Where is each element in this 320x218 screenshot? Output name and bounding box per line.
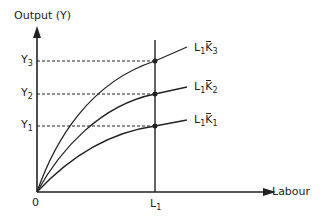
y-axis-label: Output (Y) [14,10,71,22]
curve-k2-label: L1K2 [194,81,218,94]
point-y3 [153,59,158,64]
y2-label: Y2 [21,87,33,100]
x-axis-label: Labour [272,186,310,198]
production-diagram: Output (Y) Labour 0 L1 Y3 Y2 Y1 L1K3 L1K… [0,0,320,218]
curve-k1-label: L1K1 [194,114,218,127]
curve-k3-label: L1K3 [194,42,218,55]
origin-label: 0 [32,197,39,209]
curve-k1 [37,120,187,192]
point-y1 [153,124,158,129]
l1-label: L1 [150,198,161,211]
y1-label: Y1 [21,119,33,132]
y-axis-arrow-icon [33,26,41,38]
y3-label: Y3 [21,54,33,67]
curve-k2 [37,87,187,192]
point-y2 [153,92,158,97]
